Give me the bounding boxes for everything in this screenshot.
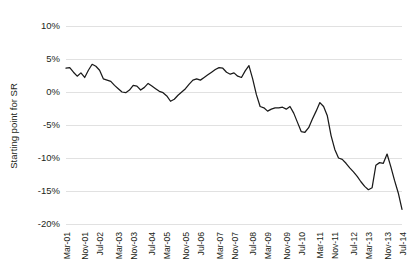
y-tick-label: -10%	[38, 152, 61, 163]
x-tick-label: Nov-05	[181, 232, 191, 260]
x-tick-label: Jul-08	[248, 232, 258, 256]
x-axis-tick-labels: Mar-01Nov-01Jul-02Mar-03Nov-03Jul-04Mar-…	[62, 232, 408, 260]
x-tick-label: Nov-09	[282, 232, 292, 260]
x-tick-label: Nov-01	[80, 232, 90, 260]
x-tick-label: Nov-07	[230, 232, 240, 260]
x-tick-label: Mar-13	[364, 232, 374, 259]
x-tick-label: Jul-06	[196, 232, 206, 256]
x-tick-label: Nov-03	[129, 232, 139, 260]
x-tick-label: Jul-12	[349, 232, 359, 256]
y-tick-label: 5%	[46, 53, 60, 64]
x-tick-label: Mar-09	[263, 232, 273, 259]
x-tick-label: Jul-02	[95, 232, 105, 256]
series-line-starting-point-for-sr	[66, 64, 402, 209]
y-tick-label: -15%	[38, 185, 61, 196]
y-tick-label: -20%	[38, 218, 61, 229]
line-chart: 10%5%0%-5%-10%-15%-20% Mar-01Nov-01Jul-0…	[0, 0, 420, 280]
x-tick-label: Mar-03	[114, 232, 124, 259]
x-tick-label: Jul-04	[147, 232, 157, 256]
x-tick-label: Mar-05	[162, 232, 172, 259]
x-tick-label: Jul-10	[297, 232, 307, 256]
x-tick-label: Mar-11	[315, 232, 325, 259]
y-axis-tick-labels: 10%5%0%-5%-10%-15%-20%	[38, 20, 61, 229]
data-series	[66, 64, 402, 209]
x-tick-label: Mar-07	[215, 232, 225, 259]
gridlines	[66, 26, 402, 224]
y-tick-label: 0%	[46, 86, 60, 97]
chart-container: 10%5%0%-5%-10%-15%-20% Mar-01Nov-01Jul-0…	[0, 0, 420, 280]
x-tick-label: Jul-14	[398, 232, 408, 256]
y-tick-label: -5%	[43, 119, 60, 130]
y-tick-label: 10%	[41, 20, 61, 31]
x-tick-label: Nov-11	[330, 232, 340, 259]
y-axis-title: Starting point for SR	[8, 83, 19, 169]
x-tick-label: Nov-13	[383, 232, 393, 260]
x-tick-label: Mar-01	[62, 232, 72, 259]
